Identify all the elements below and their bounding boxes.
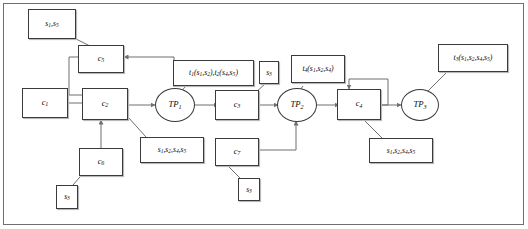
connector-layer [0, 0, 528, 229]
node-label: c3 [234, 101, 241, 110]
node-c5: c5 [78, 45, 124, 73]
node-t3: t3(s1,s2,s4,s5) [438, 44, 508, 72]
node-tp1: TP1 [155, 88, 195, 122]
node-c4: c4 [337, 89, 381, 120]
node-label: t1(s1,s2),t2(s4,s5) [189, 69, 238, 77]
node-label: s1,s2,s4,s5 [387, 147, 415, 155]
leader-c2-to-note [128, 117, 146, 137]
node-label: c2 [102, 100, 109, 109]
node-t4: t4(s1,s2,s4) [291, 55, 345, 83]
node-c7: c7 [215, 138, 259, 166]
node-label: c7 [234, 148, 241, 157]
note-c4-signals: s1,s2,s4,s5 [369, 138, 433, 163]
diagram-canvas: s1,s5 c5 c1 c2 TP1 t1(s1,s2),t2(s4,s5) s… [0, 0, 528, 229]
node-s3-mid: s3 [259, 61, 279, 84]
node-s3-bottom-left: s3 [56, 185, 78, 209]
node-c3: c3 [215, 90, 259, 120]
node-label: TP2 [290, 100, 303, 109]
node-label: TP3 [413, 100, 426, 109]
node-label: c5 [98, 55, 105, 64]
wire-c7-to-tp2 [259, 121, 296, 150]
node-label: s1,s2,s4,s5 [158, 146, 186, 154]
node-c2: c2 [82, 88, 128, 120]
node-c1: c1 [22, 88, 68, 118]
leader-c4-to-note [364, 120, 382, 138]
node-label: t3(s1,s2,s4,s5) [454, 54, 493, 62]
wire-tp1-feedback-to-c5 [124, 57, 174, 87]
node-label: c1 [42, 99, 49, 108]
node-tp3: TP3 [401, 89, 439, 121]
node-label: c6 [98, 158, 105, 167]
node-label: c4 [356, 100, 363, 109]
node-c6: c6 [79, 148, 123, 176]
note-c2-signals: s1,s2,s4,s5 [140, 137, 204, 163]
node-label: TP1 [168, 100, 181, 109]
node-s1s5-top: s1,s5 [28, 9, 76, 39]
node-label: s3 [246, 186, 252, 194]
node-label: t4(s1,s2,s4) [302, 65, 333, 73]
node-label: s1,s5 [45, 20, 58, 28]
node-s3-bottom-mid: s3 [238, 178, 260, 201]
node-tp2: TP2 [277, 88, 317, 122]
node-label: s3 [266, 69, 272, 77]
node-label: s3 [64, 193, 70, 201]
node-t1-t2: t1(s1,s2),t2(s4,s5) [173, 60, 254, 86]
